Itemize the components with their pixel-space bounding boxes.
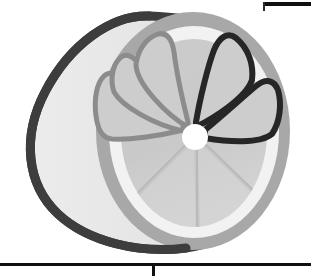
bottom-rule <box>0 263 311 266</box>
bottom-tick <box>152 264 155 276</box>
ray-bottom <box>196 150 198 232</box>
cut-face-group <box>95 12 290 250</box>
top-right-rule <box>264 2 311 6</box>
screenshot-canvas <box>0 0 311 276</box>
top-right-tick <box>263 2 265 11</box>
core-center <box>182 124 208 150</box>
citrus-illustration <box>0 0 311 276</box>
